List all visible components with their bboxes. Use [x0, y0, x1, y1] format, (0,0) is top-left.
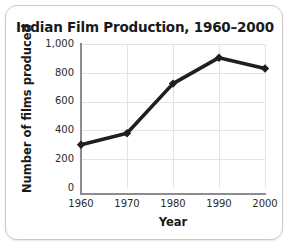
x-axis-tick-label: 2000 [243, 199, 287, 209]
data-point-marker [261, 64, 269, 72]
series-markers [77, 53, 269, 149]
chart-card: Indian Film Production, 1960–2000 1,000 … [5, 5, 283, 240]
x-axis-tick-label: 1990 [197, 199, 241, 209]
series-line-films-produced [81, 58, 265, 145]
x-axis-tick-label: 1970 [105, 199, 149, 209]
y-axis-title: Number of films produced [20, 43, 34, 193]
data-point-marker [77, 141, 85, 149]
x-axis-tick-label: 1980 [151, 199, 195, 209]
x-axis-tick-label: 1960 [59, 199, 103, 209]
x-axis-title: Year [80, 215, 266, 229]
